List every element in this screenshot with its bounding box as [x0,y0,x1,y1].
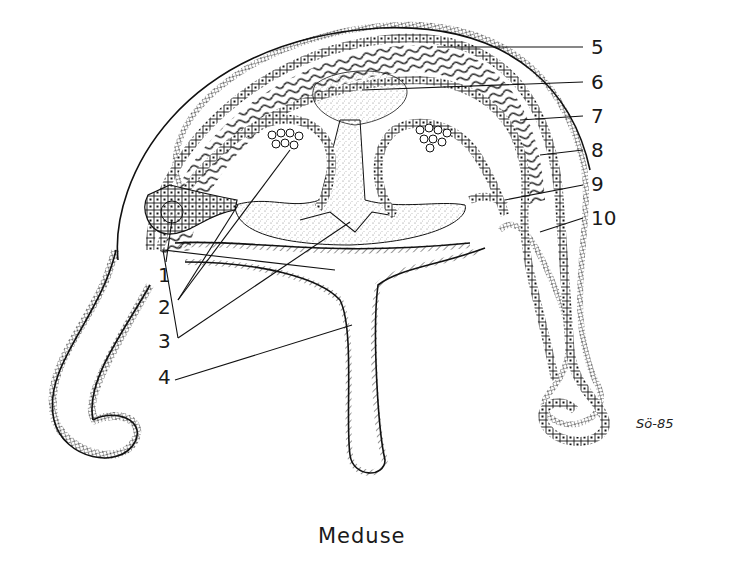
medusa-diagram: 5 6 7 8 9 10 1 2 3 4 Sö-85 Meduse [0,0,733,581]
label-3: 3 [158,329,171,353]
label-4: 4 [158,365,171,389]
label-7: 7 [591,104,604,128]
label-6: 6 [591,70,604,94]
label-9: 9 [591,172,604,196]
label-2: 2 [158,295,171,319]
marginal-organ [145,185,237,234]
label-10: 10 [591,206,616,230]
label-8: 8 [591,138,604,162]
leader-8 [540,150,583,155]
ring-canal [470,197,505,205]
manubrium [175,242,485,473]
diagram-title: Meduse [318,524,406,548]
leader-7 [520,116,583,120]
leader-4 [175,325,352,380]
leader-3a [178,222,350,338]
label-1: 1 [158,263,171,287]
label-5: 5 [591,35,604,59]
artist-signature: Sö-85 [636,416,673,431]
